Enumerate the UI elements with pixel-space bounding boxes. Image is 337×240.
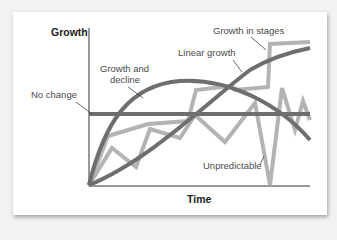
linear-growth-leader <box>233 60 242 72</box>
growth-in-stages-leader <box>251 37 266 50</box>
label-growth-and-decline-1: Growth and <box>100 63 149 74</box>
label-linear-growth: Linear growth <box>178 47 236 58</box>
label-no-change: No change <box>31 89 77 100</box>
y-axis-label: Growth <box>51 26 88 38</box>
label-growth-and-decline-2: decline <box>110 74 140 85</box>
no-change-leader <box>76 102 92 114</box>
x-axis-label: Time <box>187 193 211 205</box>
label-unpredictable: Unpredictable <box>203 160 262 171</box>
label-growth-in-stages: Growth in stages <box>213 25 284 36</box>
